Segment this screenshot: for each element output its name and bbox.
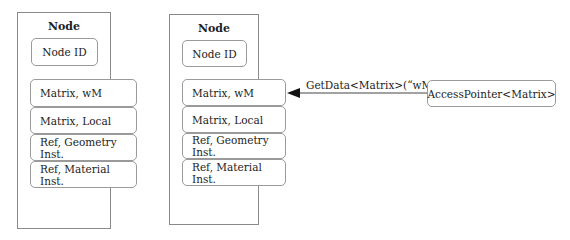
arrowhead-icon bbox=[287, 88, 300, 98]
arrow-label: GetData<Matrix>(“wM”) bbox=[306, 79, 442, 91]
arrow-connector bbox=[0, 0, 570, 240]
access-pointer-box: AccessPointer<Matrix> bbox=[427, 80, 556, 107]
